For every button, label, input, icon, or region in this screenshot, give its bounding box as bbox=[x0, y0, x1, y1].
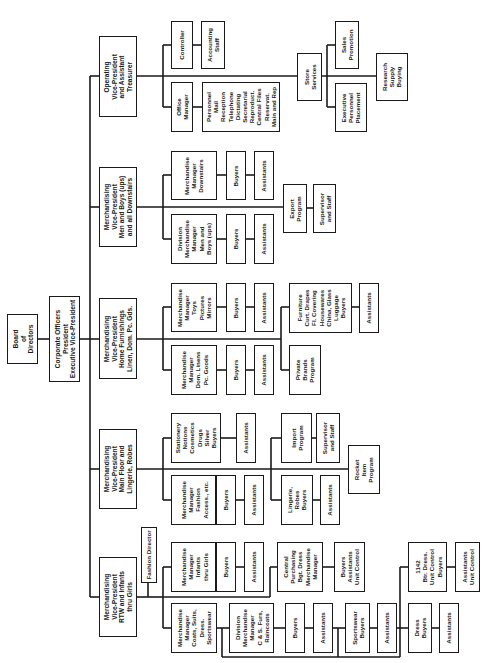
org-box-label: Merchandising Vice-President Main Floor … bbox=[103, 444, 133, 493]
org-box-label: Buyers bbox=[222, 557, 229, 578]
org-box-label: Accounting Staff bbox=[206, 28, 220, 62]
org-box-label: Buyers bbox=[232, 297, 239, 318]
org-box-office-staff: Personnel Mail Reception Telephone Dicta… bbox=[202, 82, 280, 132]
org-box-vp-men: Merchandising Vice-President Men and Boy… bbox=[99, 167, 137, 247]
org-box-asst-fashion: Assistants bbox=[244, 475, 264, 525]
org-box-mm-fashion: Merchandise Manager Fashion Access., etc… bbox=[171, 475, 216, 525]
org-box-sup-staff-import: Supervisor and Staff bbox=[316, 413, 340, 463]
org-box-label: Executive Personnel Placement bbox=[340, 92, 362, 123]
org-box-asst-linens: Assistants bbox=[254, 345, 274, 395]
org-box-vp-home: Merchandising Vice-President Home Furnis… bbox=[99, 298, 137, 379]
org-box-label: Assistants Unit Control bbox=[460, 549, 474, 585]
org-chart: Board of DirectorsCorporate Officers Pre… bbox=[0, 0, 485, 663]
org-box-dmm-cs: Division Merchandise Manager C & S. Furs… bbox=[229, 603, 274, 653]
org-box-label: Buyers bbox=[291, 618, 298, 639]
org-box-label: Assistants bbox=[260, 160, 267, 191]
org-box-label: Controller bbox=[178, 30, 185, 60]
org-box-dmm-men: Division Merchandise Manager Men and Boy… bbox=[171, 214, 217, 264]
org-box-label: Buyers bbox=[232, 360, 239, 381]
org-box-label: Corporate Officers President Executive V… bbox=[53, 300, 76, 378]
org-box-label: Operating Vice-President and Assistant T… bbox=[103, 54, 133, 100]
org-box-label: Assistants bbox=[250, 551, 257, 582]
org-box-asst-dress: Assistants bbox=[439, 603, 459, 653]
org-box-label: Buyers bbox=[232, 165, 239, 186]
org-box-label: Assistants bbox=[250, 484, 257, 515]
org-box-central-purch: Central Purchasing Bgt. Dress Merchandis… bbox=[277, 542, 323, 592]
org-box-vp-oper: Operating Vice-President and Assistant T… bbox=[99, 36, 137, 117]
org-box-buyers-linens: Buyers bbox=[226, 345, 246, 395]
org-box-label: Personnel Mail Reception Telephone Dicta… bbox=[205, 87, 277, 127]
org-box-label: Board of Directors bbox=[11, 325, 34, 354]
org-box-asst-furniture: Assistants bbox=[359, 283, 379, 333]
org-box-store-services: Store Services bbox=[297, 53, 322, 101]
org-box-private-brands: Private Brands Program bbox=[289, 345, 321, 395]
org-box-label: Lingerie, Robes Buyers bbox=[286, 487, 308, 513]
org-box-label: Assistants bbox=[445, 612, 452, 643]
org-box-furniture-buyers: Furniture Curt. Drapes Fl. Covering Hous… bbox=[289, 283, 352, 333]
org-box-exec-personnel: Executive Personnel Placement bbox=[335, 83, 367, 132]
org-box-label: Rocket Item Program bbox=[353, 457, 375, 482]
org-box-label: Buyers Assistants Unit Control bbox=[339, 549, 361, 585]
org-box-label: Merchandise Manager Dom. Linens Pc. Good… bbox=[180, 351, 209, 389]
org-box-label: Merchandise Manager Fashion Access., etc… bbox=[179, 481, 208, 519]
org-box-label: Division Merchandise Manager C & S. Furs… bbox=[233, 609, 269, 647]
org-box-label: Merchandising Vice-President RTW and Inf… bbox=[103, 571, 133, 623]
org-box-label: Sportswear Buyers bbox=[350, 611, 364, 645]
org-box-label: Store Services bbox=[302, 64, 316, 89]
org-box-asst-cs: Assistants bbox=[313, 603, 333, 653]
org-box-corp: Corporate Officers President Executive V… bbox=[49, 296, 80, 382]
org-box-label: Merchandising Vice-President Men and Boy… bbox=[103, 176, 133, 239]
org-box-label: Assistants bbox=[260, 292, 267, 323]
org-box-dress-buyers: Dress Buyers bbox=[408, 603, 432, 653]
org-box-stationery-buyers: Stationery Notions Cosmetics Drugs Silve… bbox=[171, 413, 221, 463]
org-box-buyers-fashion: Buyers bbox=[216, 475, 236, 525]
org-box-label: Assistants bbox=[326, 484, 333, 515]
org-box-label: Assistants bbox=[365, 292, 372, 323]
org-box-label: Central Purchasing Bgt. Dress Merchandis… bbox=[282, 548, 318, 586]
org-box-label: Merchandising Vice-President Home Furnis… bbox=[103, 306, 133, 372]
org-box-label: Supervisor and Staff bbox=[317, 192, 331, 224]
org-box-label: Assistants bbox=[242, 422, 249, 453]
org-box-mm-linens: Merchandise Manager Dom. Linens Pc. Good… bbox=[171, 345, 217, 395]
org-box-label: Dress Buyers bbox=[413, 618, 427, 639]
org-box-vp-main: Merchandising Vice-President Main Floor … bbox=[99, 429, 137, 509]
org-box-import: Import Program bbox=[281, 413, 312, 463]
org-box-label: Supervisor and Staff bbox=[321, 422, 335, 454]
org-box-buyers-men: Buyers bbox=[226, 214, 246, 264]
org-box-btr-dress-buyers: 1142 Btr. Dress. Unit Control Buyers bbox=[408, 542, 447, 592]
org-box-vp-rtw: Merchandising Vice-President RTW and Inf… bbox=[99, 557, 137, 637]
org-box-label: Furniture Curt. Drapes Fl. Covering Hous… bbox=[295, 289, 345, 326]
org-box-buyers-toys: Buyers bbox=[226, 283, 246, 332]
org-box-buyers-infants: Buyers bbox=[216, 542, 236, 592]
org-box-label: Stationery Notions Cosmetics Drugs Silve… bbox=[174, 422, 217, 453]
org-box-label: Division Merchandise Manager Men and Boy… bbox=[176, 220, 212, 258]
org-box-buyers-cs: Buyers bbox=[285, 603, 305, 653]
org-box-label: Import Program bbox=[289, 425, 303, 450]
org-box-asst-toys: Assistants bbox=[254, 283, 274, 332]
org-box-asst-stationery: Assistants bbox=[236, 413, 256, 463]
org-box-label: Buyers bbox=[222, 490, 229, 511]
org-box-controller: Controller bbox=[171, 21, 193, 69]
org-box-label: Merchandise Manager Downstairs bbox=[183, 157, 205, 195]
org-box-label: Private Brands Program bbox=[294, 357, 316, 382]
org-box-office-mgr: Office Manager bbox=[171, 82, 193, 132]
org-box-fashion-dir: Fashion Director bbox=[141, 527, 157, 583]
org-box-mm-infants: Merchandise Manager Infants thru Girls bbox=[171, 542, 216, 592]
org-box-label: Merchandise Manager Infants thru Girls bbox=[179, 548, 208, 586]
org-box-asst-men: Assistants bbox=[254, 214, 274, 264]
org-box-mm-toys: Merchandise Manager Toys Pictures Mirror… bbox=[171, 283, 217, 332]
org-box-label: 1142 Btr. Dress. Unit Control Buyers bbox=[413, 549, 442, 585]
org-box-sportswear-buyers: Sportswear Buyers bbox=[345, 603, 370, 653]
org-box-label: Fashion Director bbox=[145, 530, 152, 579]
org-box-board: Board of Directors bbox=[7, 314, 38, 364]
org-box-acct-staff: Accounting Staff bbox=[201, 21, 225, 69]
org-box-label: Merchandise Manager Toys Pictures Mirror… bbox=[176, 289, 212, 327]
org-box-label: Office Manager bbox=[175, 94, 189, 119]
org-box-label: Research Supply Buying bbox=[381, 63, 403, 91]
org-box-label: Merchandise Manager Coats, Suits, Dress.… bbox=[176, 609, 212, 647]
org-box-label: Sales Promotion bbox=[340, 30, 354, 61]
org-box-buyers-ds: Buyers bbox=[226, 151, 246, 200]
org-box-label: Buyers bbox=[232, 229, 239, 250]
org-box-asst-sportswear: Assistants bbox=[377, 603, 397, 653]
org-box-sales-promo: Sales Promotion bbox=[335, 21, 359, 69]
